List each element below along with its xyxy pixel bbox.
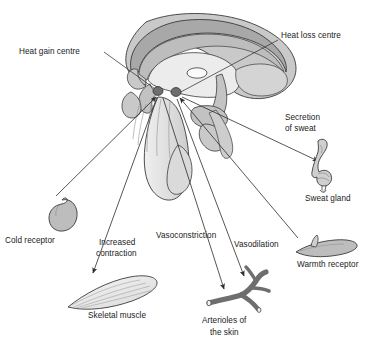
occipital-shading bbox=[236, 64, 288, 96]
label-arterioles-line2: the skin bbox=[210, 328, 239, 338]
label-vasodilation: Vasodilation bbox=[234, 240, 279, 250]
cold-receptor-icon bbox=[49, 198, 77, 231]
label-increased-contraction-line2: contraction bbox=[96, 249, 137, 259]
label-cold-receptor: Cold receptor bbox=[5, 236, 55, 246]
heat-gain-centre-dot bbox=[153, 87, 163, 96]
label-vasoconstriction: Vasoconstriction bbox=[156, 231, 216, 241]
brain-sagittal-section bbox=[122, 14, 296, 201]
label-secretion-of-sweat-line2: of sweat bbox=[285, 124, 316, 134]
heat-loss-centre-dot bbox=[171, 88, 181, 97]
label-sweat-gland: Sweat gland bbox=[305, 194, 351, 204]
pituitary-region bbox=[122, 92, 141, 118]
arterioles-icon bbox=[207, 267, 269, 312]
arrow-cold-receptor-to-gain bbox=[56, 97, 156, 196]
warmth-receptor-icon bbox=[296, 235, 357, 257]
label-skeletal-muscle: Skeletal muscle bbox=[88, 311, 146, 321]
label-heat-gain-centre: Heat gain centre bbox=[19, 47, 80, 57]
label-heat-loss-centre: Heat loss centre bbox=[281, 31, 341, 41]
lateral-ventricle bbox=[187, 68, 207, 78]
arrow-warmth-receptor-to-loss bbox=[180, 98, 298, 238]
sweat-gland-icon bbox=[312, 139, 332, 192]
label-warmth-receptor: Warmth receptor bbox=[297, 260, 358, 270]
thermoregulation-diagram: Heat gain centre Heat loss centre Secret… bbox=[0, 0, 380, 351]
label-secretion-of-sweat-line1: Secretion bbox=[285, 113, 320, 123]
skeletal-muscle-icon bbox=[68, 276, 157, 309]
label-arterioles-line1: Arterioles of bbox=[202, 316, 246, 326]
pathway-arrows bbox=[56, 97, 318, 289]
label-increased-contraction-line1: Increased bbox=[99, 238, 135, 248]
